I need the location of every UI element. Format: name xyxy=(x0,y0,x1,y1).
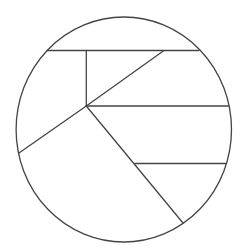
lower-right-diagonal-line xyxy=(86,106,183,223)
upper-right-diagonal-line xyxy=(86,51,164,107)
partition-lines xyxy=(19,51,229,224)
lower-left-diagonal-line xyxy=(19,106,86,153)
partitioned-circle-diagram xyxy=(0,0,246,252)
